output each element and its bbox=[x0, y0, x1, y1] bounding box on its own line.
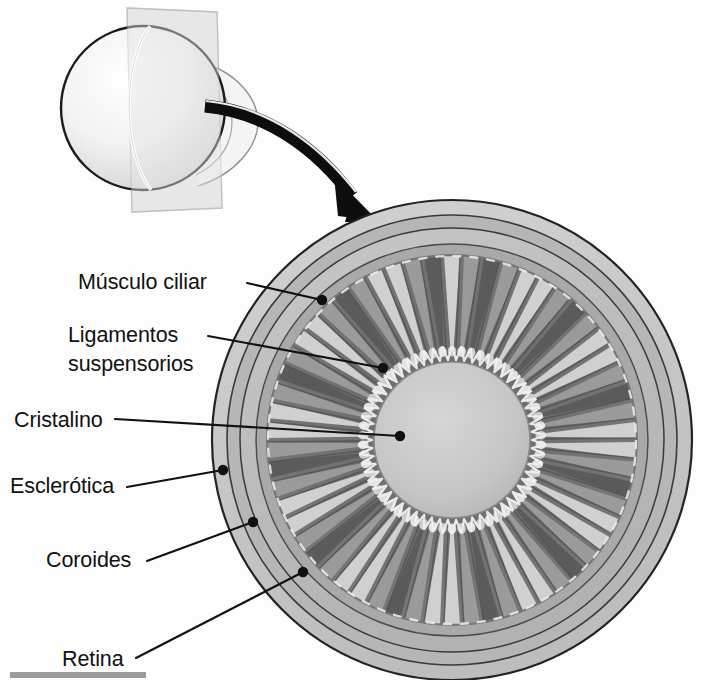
figure-canvas: Músculo ciliarLigamentossuspensoriosCris… bbox=[0, 0, 701, 680]
label-musculo-ciliar-dot bbox=[317, 295, 327, 305]
label-cristalino-text: Cristalino bbox=[14, 408, 103, 432]
ciliary-groove bbox=[268, 441, 360, 442]
label-esclerotica: Esclerótica bbox=[10, 465, 228, 498]
label-esclerotica-text: Esclerótica bbox=[10, 474, 114, 498]
label-ligamentos-suspensorios-text: Ligamentossuspensorios bbox=[68, 323, 193, 376]
eye-anatomy-figure: Músculo ciliarLigamentossuspensoriosCris… bbox=[0, 0, 701, 680]
bottom-rule bbox=[10, 672, 146, 678]
label-retina-text: Retina bbox=[62, 647, 124, 671]
label-ligamentos-suspensorios-dot bbox=[378, 363, 388, 373]
eye-cross-section bbox=[212, 200, 692, 680]
label-musculo-ciliar-text: Músculo ciliar bbox=[78, 270, 207, 294]
label-esclerotica-dot bbox=[218, 465, 228, 475]
label-coroides: Coroides bbox=[46, 517, 258, 572]
ciliary-groove bbox=[544, 438, 636, 439]
label-cristalino-dot bbox=[395, 431, 405, 441]
label-coroides-dot bbox=[248, 517, 258, 527]
label-retina-leader bbox=[136, 572, 303, 658]
label-coroides-text: Coroides bbox=[46, 548, 131, 572]
label-esclerotica-leader bbox=[127, 470, 223, 487]
label-retina-dot bbox=[298, 567, 308, 577]
